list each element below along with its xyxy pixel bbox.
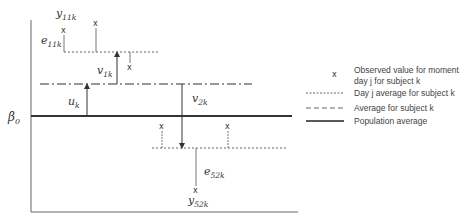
v1k-label: v1k	[97, 64, 113, 79]
observation-marker: x	[127, 63, 132, 72]
e52k-label: e52k	[204, 165, 225, 180]
observation-marker: x	[93, 19, 98, 28]
observation-marker: x	[61, 26, 66, 35]
variance-decomposition-diagram: β0 x x x x x x y11k e11k v1k uk v2k e52k…	[0, 0, 460, 224]
v2k-label: v2k	[192, 92, 208, 107]
y52k-label: y52k	[187, 194, 209, 209]
legend-day-average: Day j average for subject k	[354, 88, 455, 98]
legend-observed-line2: day j for subject k	[354, 76, 421, 86]
day2-observations: x x x	[159, 122, 230, 195]
observation-marker: x	[225, 122, 230, 131]
uk-label: uk	[68, 95, 80, 110]
legend-marker-symbol: x	[332, 70, 337, 79]
legend-subject-average: Average for subject k	[354, 103, 434, 113]
beta0-label: β0	[7, 110, 20, 126]
y11k-label: y11k	[55, 7, 77, 22]
legend-observed-line1: Observed value for moment	[354, 65, 460, 75]
observation-marker: x	[159, 122, 164, 131]
legend: x Observed value for moment day j for su…	[306, 65, 460, 126]
legend-population-average: Population average	[354, 116, 428, 126]
e11k-label: e11k	[41, 34, 62, 49]
